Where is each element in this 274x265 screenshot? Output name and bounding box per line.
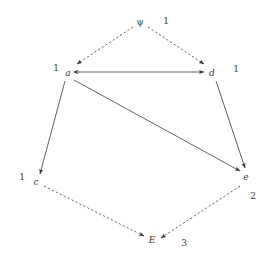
edge-psi-to-d [148, 27, 204, 64]
node-label-a: a [65, 69, 70, 78]
weight-label-a: 1 [53, 64, 59, 73]
node-label-c: c [33, 178, 38, 187]
weight-label-d: 1 [233, 65, 239, 74]
edge-psi-to-a [77, 27, 133, 64]
node-label-e: e [243, 173, 248, 182]
edge-c-to-E [44, 186, 144, 236]
node-label-E: E [149, 236, 156, 245]
edge-a-to-e [74, 80, 240, 171]
weight-label-e: 2 [250, 192, 256, 201]
edge-group-solid [40, 72, 245, 174]
weight-label-E: 3 [181, 239, 187, 248]
edge-group-dashed [44, 27, 240, 238]
weight-label-c: 1 [19, 173, 25, 182]
edge-d-to-e [216, 81, 245, 168]
node-label-d: d [209, 69, 215, 78]
edge-e-to-E [161, 186, 240, 238]
graph-edges-canvas [0, 0, 274, 265]
edge-a-to-c [40, 81, 65, 174]
graph-diagram: ψ a d c e E 1 1 1 1 2 3 [0, 0, 274, 265]
weight-label-psi: 1 [163, 17, 169, 26]
node-label-psi: ψ [136, 18, 143, 27]
